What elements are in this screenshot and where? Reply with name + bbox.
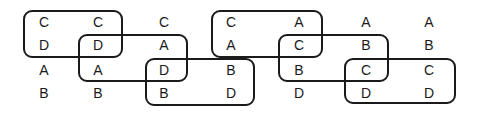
cell-c3-r4: B bbox=[154, 83, 174, 103]
cell-c5-r3: B bbox=[289, 60, 309, 80]
cell-c1-r3: A bbox=[34, 60, 54, 80]
cell-c7-r2: B bbox=[419, 35, 439, 55]
cell-c2-r2: D bbox=[88, 35, 108, 55]
cell-c3-r2: A bbox=[154, 35, 174, 55]
cell-c1-r1: C bbox=[34, 12, 54, 32]
cell-c4-r4: D bbox=[221, 83, 241, 103]
cell-c7-r3: C bbox=[419, 60, 439, 80]
cell-c3-r1: C bbox=[154, 12, 174, 32]
cell-c7-r1: A bbox=[419, 12, 439, 32]
cell-c1-r4: B bbox=[34, 83, 54, 103]
cell-c6-r3: C bbox=[356, 60, 376, 80]
cell-c4-r2: A bbox=[221, 35, 241, 55]
cell-c7-r4: D bbox=[419, 83, 439, 103]
cell-c1-r2: D bbox=[34, 35, 54, 55]
cell-c6-r1: A bbox=[356, 12, 376, 32]
cell-c2-r3: A bbox=[88, 60, 108, 80]
cell-c2-r1: C bbox=[88, 12, 108, 32]
cell-c4-r1: C bbox=[221, 12, 241, 32]
permutation-diagram: C D A B C D A B C A D B C A B D A C B D … bbox=[0, 0, 479, 113]
cell-c6-r4: D bbox=[356, 83, 376, 103]
cell-c5-r2: C bbox=[289, 35, 309, 55]
cell-c6-r2: B bbox=[356, 35, 376, 55]
cell-c3-r3: D bbox=[154, 60, 174, 80]
cell-c5-r4: D bbox=[289, 83, 309, 103]
cell-c2-r4: B bbox=[88, 83, 108, 103]
cell-c4-r3: B bbox=[221, 60, 241, 80]
cell-c5-r1: A bbox=[289, 12, 309, 32]
